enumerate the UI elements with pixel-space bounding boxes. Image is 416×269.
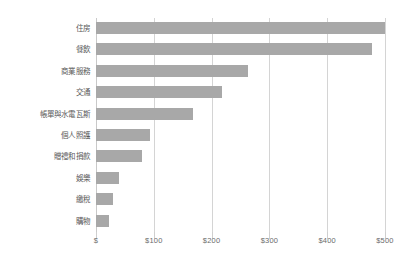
- category-axis-labels: 住房 餐飲 商業服務 交通 帳單與水電瓦斯 個人照護 贈禮和捐款 娛樂 繳稅 購…: [0, 18, 90, 232]
- category-label: 購物: [0, 211, 90, 232]
- bar-row: [96, 146, 385, 167]
- bar-交通[interactable]: [96, 86, 222, 98]
- bar-row: [96, 18, 385, 39]
- bar-chart: 住房 餐飲 商業服務 交通 帳單與水電瓦斯 個人照護 贈禮和捐款 娛樂 繳稅 購…: [0, 0, 416, 269]
- category-label: 帳單與水電瓦斯: [0, 104, 90, 125]
- bar-餐飲[interactable]: [96, 43, 372, 55]
- bar-row: [96, 168, 385, 189]
- bar-帳單與水電瓦斯[interactable]: [96, 108, 193, 120]
- bar-row: [96, 125, 385, 146]
- category-label: 交通: [0, 82, 90, 103]
- x-tick-label: $400: [318, 236, 336, 245]
- bar-住房[interactable]: [96, 22, 385, 34]
- x-tick-label: $500: [376, 236, 394, 245]
- bar-個人照護[interactable]: [96, 129, 150, 141]
- bar-row: [96, 211, 385, 232]
- category-label: 住房: [0, 18, 90, 39]
- bar-row: [96, 61, 385, 82]
- gridline-500: [385, 18, 386, 232]
- x-tick-label: $300: [261, 236, 279, 245]
- category-label: 個人照護: [0, 125, 90, 146]
- bar-商業服務[interactable]: [96, 65, 248, 77]
- category-label: 繳稅: [0, 189, 90, 210]
- bar-購物[interactable]: [96, 215, 109, 227]
- bar-繳稅[interactable]: [96, 193, 113, 205]
- bar-row: [96, 104, 385, 125]
- value-axis-labels: $ $100 $200 $300 $400 $500: [0, 236, 416, 252]
- bar-贈禮和捐款[interactable]: [96, 150, 142, 162]
- bars-layer: [96, 18, 385, 232]
- category-label: 贈禮和捐款: [0, 146, 90, 167]
- x-tick-label: $200: [203, 236, 221, 245]
- category-label: 餐飲: [0, 39, 90, 60]
- bar-row: [96, 82, 385, 103]
- x-tick-label: $: [94, 236, 98, 245]
- bar-row: [96, 39, 385, 60]
- plot-area: [96, 18, 385, 232]
- category-label: 商業服務: [0, 61, 90, 82]
- category-label: 娛樂: [0, 168, 90, 189]
- bar-娛樂[interactable]: [96, 172, 119, 184]
- bar-row: [96, 189, 385, 210]
- x-tick-label: $100: [145, 236, 163, 245]
